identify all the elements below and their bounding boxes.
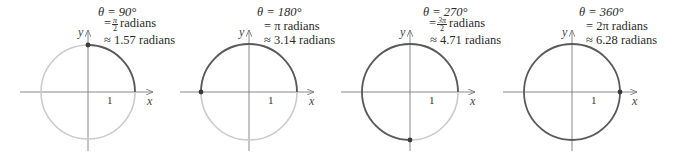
x-axis-label: x [309,94,314,109]
approx-radians: ≈ 1.57 radians [104,33,175,47]
equals-sign: = [429,16,436,30]
angle-radians-approx-label: ≈ 3.14 radians [264,34,335,47]
equals-sign: = [264,19,271,33]
angle-radians-exact-label: = π radians [264,20,320,33]
y-axis-label: y [562,25,567,40]
unit-tick-label: 1 [591,94,597,106]
theta-degrees: θ = 180° [257,5,302,19]
approx-radians: ≈ 6.28 radians [586,33,657,47]
panel-180-degrees [180,30,314,151]
unit-tick-label: 1 [268,94,274,106]
angle-radians-approx-label: ≈ 4.71 radians [430,34,501,47]
angle-degrees-label: θ = 180° [257,6,302,19]
terminal-point [86,43,91,48]
angle-radians-approx-label: ≈ 6.28 radians [586,34,657,47]
approx-radians: ≈ 3.14 radians [264,33,335,47]
fraction-denominator: 2 [437,25,447,32]
angle-radians-exact-label: = 2π radians [586,20,648,33]
angle-radians-approx-label: ≈ 1.57 radians [104,34,175,47]
terminal-point [618,90,623,95]
exact-radians: π radians [274,19,320,33]
terminal-point [408,138,413,143]
panel-360-degrees [503,30,637,151]
y-axis-label: y [78,25,83,40]
angle-degrees-label: θ = 360° [579,6,624,19]
y-axis-label: y [400,25,405,40]
panel-90-degrees [20,30,153,151]
fraction-denominator: 2 [112,25,118,32]
equals-sign: = [586,19,593,33]
y-axis-label: y [239,25,244,40]
fraction: 3π2 [437,17,447,32]
panel-270-degrees [341,30,475,151]
radians-word: radians [120,16,156,30]
fraction: π2 [112,17,118,32]
swept-arc [88,45,135,92]
theta-degrees: θ = 360° [579,5,624,19]
x-axis-label: x [147,94,152,109]
unit-tick-label: 1 [107,94,113,106]
angle-radians-exact-label: =3π2radians [429,17,485,32]
terminal-point [199,90,204,95]
exact-radians: 2π radians [596,19,648,33]
angle-radians-exact-label: =π2radians [104,17,156,32]
equals-sign: = [104,16,111,30]
x-axis-label: x [632,94,637,109]
unit-tick-label: 1 [429,94,435,106]
approx-radians: ≈ 4.71 radians [430,33,501,47]
radians-word: radians [449,16,485,30]
x-axis-label: x [470,94,475,109]
unit-circle-diagrams [0,0,679,159]
